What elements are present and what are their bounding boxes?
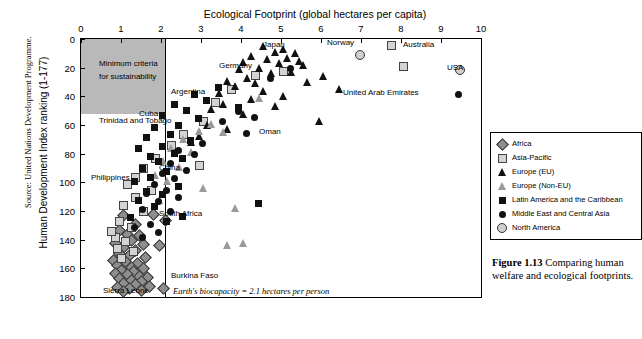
biocapacity-annotation: Earth's biocapacity = 2.1 hectares per p… <box>173 286 329 296</box>
x-tick <box>481 39 482 43</box>
x-tick-label: 9 <box>438 23 443 34</box>
data-point <box>279 92 287 100</box>
data-point <box>159 143 166 150</box>
data-point <box>119 201 128 210</box>
data-point <box>219 118 226 125</box>
data-point <box>139 206 146 213</box>
point-label: Japan <box>263 40 285 49</box>
x-tick-label: 2 <box>158 23 163 34</box>
data-point <box>223 77 231 85</box>
data-point <box>271 102 279 110</box>
y-tick-label: 40 <box>64 91 75 102</box>
data-point <box>199 184 207 192</box>
data-point <box>107 227 116 236</box>
y-tick-label: 180 <box>59 292 75 303</box>
data-point <box>219 128 227 136</box>
legend: AfricaAsia-PacificEurope (EU)Europe (Non… <box>490 132 642 240</box>
legend-item: Africa <box>495 137 637 151</box>
data-point <box>143 134 150 141</box>
data-point <box>335 85 343 93</box>
x-tick-label: 0 <box>78 23 83 34</box>
y-tick <box>81 125 85 126</box>
data-point <box>255 64 263 72</box>
data-point <box>147 153 154 160</box>
y-tick <box>81 39 85 40</box>
data-point <box>251 114 258 121</box>
legend-item: Latin America and the Caribbean <box>495 193 637 207</box>
legend-label: North America <box>512 224 560 232</box>
y-tick <box>81 182 85 183</box>
x-tick-label: 6 <box>318 23 323 34</box>
data-point <box>191 151 198 158</box>
data-point <box>355 50 365 60</box>
data-point <box>455 91 462 98</box>
data-point <box>271 48 279 56</box>
data-point <box>195 115 202 122</box>
data-point <box>155 198 162 205</box>
data-point <box>131 178 138 185</box>
x-tick-label: 10 <box>476 23 487 34</box>
x-tick-label: 3 <box>198 23 203 34</box>
data-point <box>135 197 142 204</box>
point-label: Philippines <box>91 173 130 182</box>
data-point <box>127 214 134 221</box>
x-tick <box>121 39 122 43</box>
data-point <box>147 221 154 228</box>
data-point <box>199 140 206 147</box>
legend-label: Latin America and the Caribbean <box>512 196 623 204</box>
y-tick-label: 160 <box>59 263 75 274</box>
data-point <box>115 217 124 226</box>
data-point <box>319 72 327 80</box>
y-tick <box>81 154 85 155</box>
data-point <box>283 54 291 62</box>
data-point <box>143 190 150 197</box>
data-point <box>195 127 203 135</box>
figure-number: Figure 1.13 <box>492 257 543 268</box>
point-label: Burkina Faso <box>171 271 218 280</box>
data-point <box>175 147 182 154</box>
source-credit: Source: United Nations Development Progr… <box>23 58 33 208</box>
x-tick <box>241 39 242 43</box>
data-point <box>117 254 126 263</box>
y-tick-label: 80 <box>64 148 75 159</box>
x-tick <box>441 39 442 43</box>
data-point <box>163 187 170 194</box>
legend-label: Africa <box>512 140 531 148</box>
data-point <box>187 137 194 144</box>
legend-item: Asia-Pacific <box>495 151 637 165</box>
x-axis-title: Ecological Footprint (global hectares pe… <box>150 8 480 20</box>
data-point <box>135 145 142 152</box>
figure-caption: Figure 1.13 Comparing human welfare and … <box>492 256 634 283</box>
legend-marker-circle-gy-icon <box>495 223 509 233</box>
y-tick-label: 0 <box>70 34 75 45</box>
data-point <box>163 177 171 185</box>
data-point <box>139 165 146 172</box>
legend-marker-circle-dk-icon <box>495 211 509 218</box>
point-label: Sierra Leone <box>103 286 149 295</box>
legend-item: Europe (EU) <box>495 165 637 179</box>
x-tick <box>201 39 202 43</box>
data-point <box>387 41 396 50</box>
data-point <box>203 97 210 104</box>
x-tick-label: 4 <box>238 23 243 34</box>
legend-label: Asia-Pacific <box>512 154 552 162</box>
data-point <box>247 52 255 60</box>
legend-item: Europe (Non-EU) <box>495 179 637 193</box>
data-point <box>157 283 170 296</box>
point-label: USA <box>447 63 463 72</box>
data-point <box>315 117 323 125</box>
data-point <box>183 107 190 114</box>
point-label: Argentina <box>171 87 205 96</box>
data-point <box>147 174 154 181</box>
legend-marker-diamond-icon <box>495 140 509 149</box>
point-label: Germany <box>219 61 252 70</box>
data-point <box>243 130 250 137</box>
data-point <box>113 244 122 253</box>
point-label: Trinidad and Tobago <box>99 116 172 125</box>
data-point <box>175 122 182 129</box>
y-tick <box>81 268 85 269</box>
data-point <box>207 105 215 113</box>
data-point <box>215 84 222 91</box>
data-point <box>223 241 231 249</box>
